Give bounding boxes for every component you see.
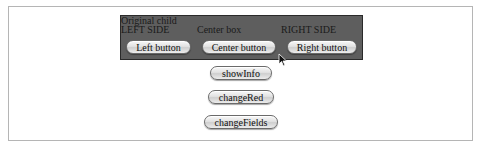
left-side-label: LEFT SIDE: [121, 25, 169, 35]
change-red-button[interactable]: changeRed: [208, 90, 274, 104]
left-button[interactable]: Left button: [126, 40, 191, 54]
mouse-pointer-icon: [278, 53, 288, 67]
right-side-label: RIGHT SIDE: [281, 25, 336, 35]
center-button[interactable]: Center button: [202, 40, 276, 54]
change-fields-button[interactable]: changeFields: [204, 115, 278, 129]
right-button[interactable]: Right button: [287, 40, 357, 54]
show-info-button[interactable]: showInfo: [210, 66, 272, 80]
center-box-label: Center box: [197, 25, 241, 35]
